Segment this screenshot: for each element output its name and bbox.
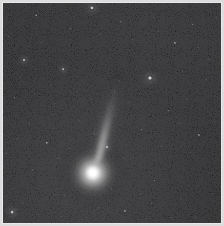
star-point — [32, 169, 34, 171]
star-point — [178, 122, 180, 124]
comet-tail — [3, 3, 221, 223]
star-point — [157, 30, 159, 32]
star-point — [110, 188, 112, 190]
star-point — [105, 145, 109, 149]
star-point — [64, 195, 66, 197]
star-point — [189, 151, 191, 153]
star-point — [214, 120, 216, 122]
star-point — [33, 92, 35, 94]
star-point — [145, 217, 147, 219]
star-point — [186, 98, 188, 100]
star-point — [123, 157, 125, 159]
star-point — [82, 50, 84, 52]
star-point — [180, 198, 182, 200]
comet-coma — [54, 134, 132, 212]
star-point — [19, 76, 21, 78]
star-point — [66, 12, 68, 14]
star-point — [147, 53, 149, 55]
star-point — [197, 46, 199, 48]
star-point — [205, 78, 207, 80]
star-point — [7, 35, 9, 37]
star-point — [85, 216, 87, 218]
star-point — [78, 120, 80, 122]
star-point — [61, 67, 65, 71]
star-point — [12, 187, 14, 189]
star-point — [147, 75, 153, 81]
star-point — [123, 209, 126, 212]
star-point — [22, 58, 26, 62]
background-noise — [3, 3, 221, 223]
star-point — [70, 28, 72, 30]
star-point — [215, 16, 217, 18]
star-point — [60, 215, 62, 217]
star-point — [198, 134, 201, 137]
star-point — [45, 141, 48, 144]
star-point — [49, 84, 51, 86]
star-point — [173, 165, 175, 167]
star-point — [52, 127, 54, 129]
star-point — [128, 101, 130, 103]
star-point — [45, 11, 47, 13]
star-point — [54, 103, 56, 105]
star-point — [208, 59, 210, 61]
star-point — [160, 145, 162, 147]
star-point — [118, 79, 120, 81]
star-point — [165, 88, 167, 90]
star-point — [139, 192, 141, 194]
star-point — [68, 147, 70, 149]
star-point — [203, 107, 205, 109]
star-point — [153, 16, 155, 18]
star-point — [173, 41, 176, 44]
star-point — [168, 110, 170, 112]
star-point — [194, 216, 196, 218]
star-layer — [3, 3, 221, 223]
star-point — [192, 24, 194, 26]
star-point — [136, 65, 138, 67]
star-point — [14, 97, 16, 99]
star-point — [22, 202, 24, 204]
star-point — [131, 38, 133, 40]
star-point — [181, 70, 183, 72]
sky-glow-gradient — [3, 3, 221, 223]
star-point — [35, 14, 38, 17]
star-point — [57, 157, 59, 159]
star-point — [74, 181, 76, 183]
star-point — [150, 202, 152, 204]
star-point — [76, 90, 78, 92]
star-point — [40, 41, 42, 43]
star-point — [89, 5, 94, 10]
comet-image-frame — [0, 0, 224, 226]
star-point — [10, 210, 15, 215]
star-point — [98, 207, 100, 209]
star-point — [99, 33, 101, 35]
star-point — [93, 132, 95, 134]
star-point — [90, 98, 92, 100]
star-point — [154, 180, 156, 182]
star-point — [120, 21, 122, 23]
star-point — [107, 68, 109, 70]
comet-nucleus — [85, 165, 100, 180]
star-point — [37, 213, 39, 215]
star-point — [28, 122, 30, 124]
star-point — [16, 137, 18, 139]
star-point — [211, 192, 213, 194]
sky-field — [3, 3, 221, 223]
star-point — [170, 216, 172, 218]
star-point — [209, 172, 211, 174]
star-point — [115, 114, 117, 116]
star-point — [5, 152, 7, 154]
star-point — [141, 129, 143, 131]
star-point — [114, 90, 116, 92]
